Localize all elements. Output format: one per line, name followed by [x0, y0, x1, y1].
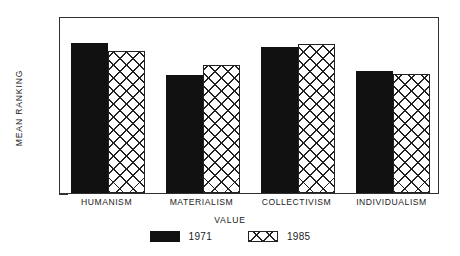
plot-area: [59, 17, 439, 194]
y-axis-title: MEAN RANKING: [14, 43, 24, 173]
x-axis-title: VALUE: [0, 215, 460, 225]
bar-materialism-1971: [166, 75, 203, 193]
bar-humanism-1985: [108, 51, 145, 193]
bar-materialism-1985: [203, 65, 240, 193]
legend-item-1971: 1971: [150, 231, 212, 242]
bar-individualism-1985: [393, 74, 430, 193]
bar-humanism-1971: [71, 43, 108, 193]
legend-item-1985: 1985: [248, 231, 310, 242]
x-tick-label-collectivism: COLLECTIVISM: [262, 197, 332, 207]
x-tick-label-materialism: MATERIALISM: [170, 197, 234, 207]
legend-label: 1985: [287, 231, 310, 242]
x-tick-label-humanism: HUMANISM: [81, 197, 132, 207]
chart-legend: 1971 1985: [0, 231, 460, 242]
x-tick-label-individualism: INDIVIDUALISM: [356, 197, 427, 207]
bar-collectivism-1985: [298, 44, 335, 193]
crosshatch-swatch-icon: [248, 231, 278, 242]
bar-collectivism-1971: [261, 47, 298, 193]
y-tick-mark: [59, 194, 68, 195]
bar-chart-figure: MEAN RANKING 0123456 HUMANISMMATERIALISM…: [0, 0, 460, 256]
solid-black-swatch-icon: [150, 231, 180, 242]
legend-label: 1971: [189, 231, 212, 242]
bar-individualism-1971: [356, 71, 393, 193]
